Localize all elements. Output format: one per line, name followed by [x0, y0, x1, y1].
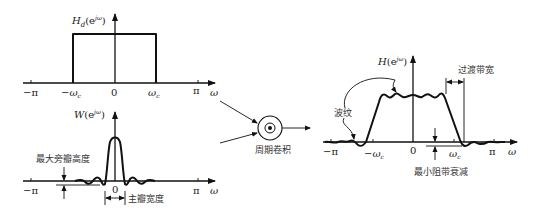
x-axis-label: ω: [210, 87, 218, 98]
window-spectrum-panel: W(ejω) −π 0 π ω 最大旁瓣高度 主瓣宽度: [23, 108, 218, 205]
tick-label-wc: ωc: [148, 87, 160, 99]
tick-label-wc: ωc: [449, 148, 461, 160]
tick-label-pi: π: [193, 85, 200, 96]
y-axis-label: Hd(ejω): [71, 14, 106, 29]
ripple-annotation: 波纹: [334, 78, 396, 139]
tick-label-neg-wc: −ωc: [61, 87, 82, 99]
tick-label-pi: π: [489, 146, 496, 157]
tick-label-neg-pi: −π: [323, 146, 338, 157]
sidelobe-height-annotation: 最大旁瓣高度: [36, 153, 100, 199]
input-arrow-top: [220, 101, 257, 123]
tick-label-zero: 0: [410, 145, 416, 156]
ripple-label: 波纹: [334, 107, 352, 118]
sidelobe-height-label: 最大旁瓣高度: [36, 153, 90, 164]
transition-band-annotation: 过渡带宽: [446, 64, 494, 142]
convolution-dot-icon: [268, 126, 272, 130]
stopband-attenuation-label: 最小阻带衰减: [414, 166, 468, 177]
x-axis-label: ω: [508, 146, 516, 157]
window-method-diagram: Hd(ejω) −π −ωc 0 ωc π ω W(ejω) −π 0 π ω …: [0, 0, 537, 218]
y-axis-label: W(ejω): [74, 108, 105, 120]
result-frequency-curve: [325, 93, 505, 146]
tick-label-pi: π: [193, 185, 200, 196]
tick-label-neg-pi: −π: [23, 87, 38, 98]
tick-label-neg-wc: −ωc: [364, 148, 385, 160]
transition-band-label: 过渡带宽: [458, 64, 494, 75]
tick-label-zero: 0: [111, 87, 117, 98]
y-axis-label: H(ejω): [377, 55, 407, 67]
convolution-label: 周期卷积: [255, 144, 291, 155]
tick-label-zero: 0: [112, 184, 118, 195]
result-response-panel: H(ejω) −π −ωc 0 ωc π ω 波纹 过渡带宽 最小阻带衰减: [323, 55, 517, 177]
mainlobe-width-label: 主瓣宽度: [128, 193, 164, 204]
ideal-response-panel: Hd(ejω) −π −ωc 0 ωc π ω: [23, 14, 218, 99]
input-arrow-bottom: [220, 133, 257, 143]
tick-label-neg-pi: −π: [23, 185, 38, 196]
x-axis-label: ω: [210, 185, 218, 196]
periodic-convolution-node: 周期卷积: [220, 101, 310, 155]
